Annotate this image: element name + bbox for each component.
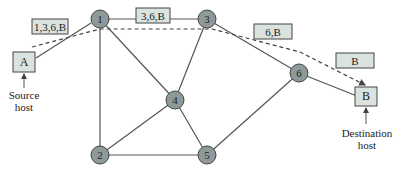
svg-text:5: 5: [204, 149, 210, 161]
destination-host-caption-line2: host: [358, 139, 376, 151]
source-host-caption-line1: Source: [9, 89, 40, 101]
router-4: 4: [166, 91, 184, 109]
route-label-3-6-B: 3,6,B: [136, 8, 170, 23]
route-label-6-B: 6,B: [254, 24, 292, 39]
route-path-arrow: [32, 29, 365, 85]
svg-text:B: B: [362, 89, 370, 103]
svg-text:3,6,B: 3,6,B: [141, 10, 165, 22]
link-1-4: [100, 19, 175, 100]
link-4-2: [100, 100, 175, 155]
svg-text:1: 1: [97, 13, 103, 25]
svg-text:1,3,6,B: 1,3,6,B: [34, 21, 66, 33]
router-5: 5: [198, 146, 216, 164]
svg-text:3: 3: [204, 13, 210, 25]
link-5-6: [207, 73, 299, 155]
route-label-1-3-6-B: 1,3,6,B: [32, 19, 68, 34]
link-3-4: [175, 19, 207, 100]
host-B: B: [355, 87, 377, 106]
network-diagram: 1,3,6,B 3,6,B 6,B B 1 2 3 4 5 6 A: [0, 0, 409, 171]
destination-host-caption-line1: Destination: [342, 127, 393, 139]
router-1: 1: [91, 10, 109, 28]
source-host-caption-line2: host: [15, 101, 33, 113]
svg-text:6,B: 6,B: [265, 26, 281, 38]
route-label-B: B: [336, 53, 374, 68]
router-6: 6: [290, 64, 308, 82]
router-3: 3: [198, 10, 216, 28]
svg-text:4: 4: [172, 94, 178, 106]
link-4-5: [175, 100, 207, 155]
host-A: A: [13, 52, 35, 72]
links: [36, 19, 357, 155]
router-2: 2: [91, 146, 109, 164]
svg-text:A: A: [20, 55, 29, 69]
svg-text:6: 6: [296, 67, 302, 79]
svg-text:2: 2: [97, 149, 103, 161]
svg-text:B: B: [351, 55, 358, 67]
